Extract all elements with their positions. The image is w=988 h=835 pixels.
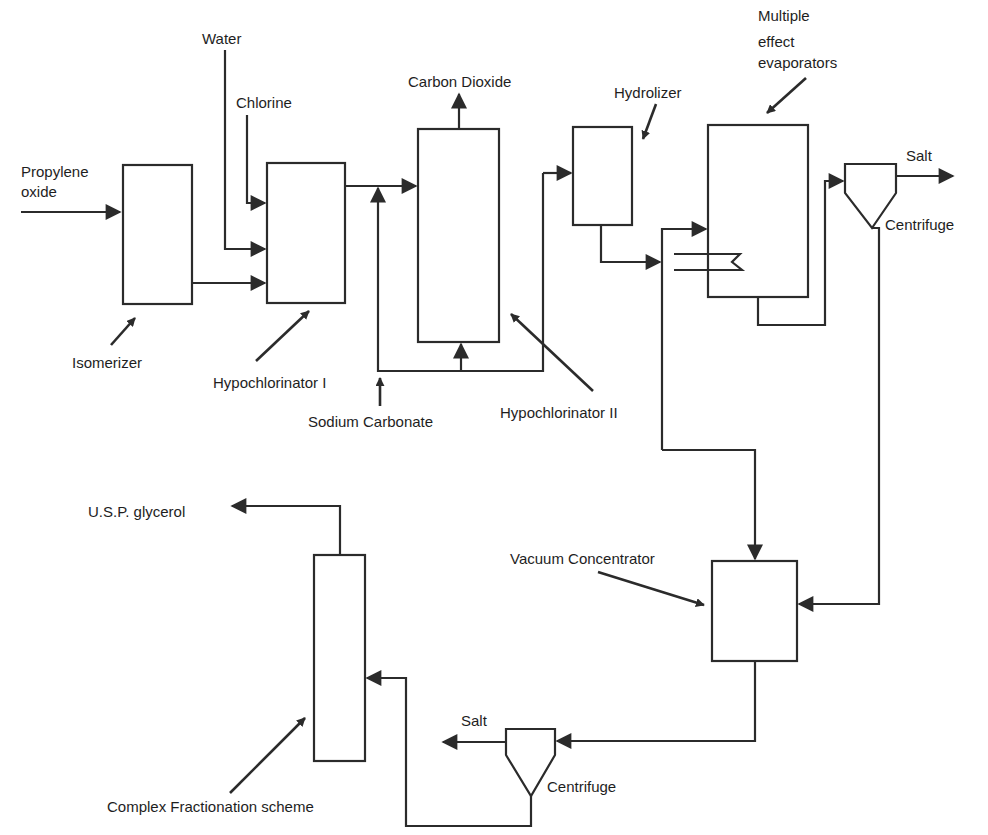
bypass-to-vacuum-concentrator xyxy=(662,450,755,559)
hypochlorinator-2-label: Hypochlorinator II xyxy=(500,404,618,421)
centrifuge-top-label: Centrifuge xyxy=(885,216,954,233)
hypochlorinator-1-unit xyxy=(267,163,345,303)
usp-glycerol-label: U.S.P. glycerol xyxy=(88,503,185,520)
hypochlorinator-1-label: Hypochlorinator I xyxy=(213,374,326,391)
sodium-carbonate-label: Sodium Carbonate xyxy=(308,413,433,430)
vacuum-concentrator-unit xyxy=(712,561,797,661)
evaporators-pointer xyxy=(767,78,806,113)
fractionation-column-unit xyxy=(314,555,365,761)
glycerol-product xyxy=(232,506,340,555)
water-label: Water xyxy=(202,30,241,47)
chlorine-label: Chlorine xyxy=(236,94,292,111)
salt-top-label: Salt xyxy=(906,147,933,164)
propylene-oxide-label-2: oxide xyxy=(21,183,57,200)
fractionation-label: Complex Fractionation scheme xyxy=(107,798,314,815)
evaporator-feed xyxy=(662,229,706,450)
hydrolizer-to-evaporator-split xyxy=(601,225,660,262)
carbon-dioxide-label: Carbon Dioxide xyxy=(408,73,511,90)
evaporators-label-1: Multiple xyxy=(758,7,810,24)
isomerizer-unit xyxy=(123,165,192,304)
salt-bottom-label: Salt xyxy=(461,712,488,729)
concentrator-to-centrifuge xyxy=(557,661,755,741)
hydrolizer-label: Hydrolizer xyxy=(614,84,682,101)
fractionation-pointer xyxy=(230,718,305,793)
isomerizer-pointer xyxy=(111,318,135,345)
centrifuge-bottom-label: Centrifuge xyxy=(547,778,616,795)
evaporators-unit xyxy=(708,125,808,297)
water-feed xyxy=(225,50,265,249)
hypochlorinator-2-unit xyxy=(418,129,499,342)
propylene-oxide-label-1: Propylene xyxy=(21,163,89,180)
hypochlorinator-2-pointer xyxy=(511,314,593,391)
chlorine-feed xyxy=(247,115,265,203)
hydrolizer-pointer xyxy=(643,104,656,139)
vacuum-concentrator-pointer xyxy=(598,572,704,605)
evaporators-label-3: evaporators xyxy=(758,54,837,71)
centrifuge-liquor-to-concentrator xyxy=(799,228,879,604)
evaporators-label-2: effect xyxy=(758,33,795,50)
process-flow-diagram: Propylene oxide Water Chlorine Carbon Di… xyxy=(0,0,988,835)
isomerizer-label: Isomerizer xyxy=(72,354,142,371)
vacuum-concentrator-label: Vacuum Concentrator xyxy=(510,550,655,567)
hypochlorinator-1-pointer xyxy=(256,311,309,361)
hydrolizer-unit xyxy=(573,127,632,225)
